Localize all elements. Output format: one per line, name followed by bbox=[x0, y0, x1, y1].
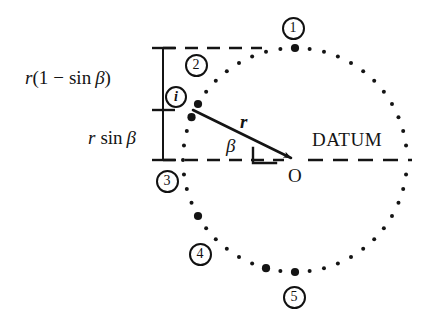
badge-4: 4 bbox=[189, 243, 212, 266]
circle-point bbox=[322, 266, 326, 270]
badge-i: i bbox=[165, 86, 187, 108]
badge-3-text: 3 bbox=[164, 173, 171, 189]
circle-point bbox=[396, 115, 400, 119]
highlighted-point bbox=[262, 264, 270, 272]
circle-point bbox=[225, 69, 229, 73]
badge-1: 1 bbox=[282, 17, 305, 40]
badge-4-text: 4 bbox=[197, 246, 204, 262]
circle-point bbox=[308, 269, 312, 273]
circle-point bbox=[250, 261, 254, 265]
circle-point bbox=[390, 214, 394, 218]
circle-point bbox=[278, 269, 282, 273]
upper-dim-angle: β bbox=[91, 67, 104, 88]
circle-point bbox=[185, 187, 189, 191]
circle-point bbox=[182, 173, 186, 177]
badge-2: 2 bbox=[185, 54, 208, 77]
circle-point bbox=[308, 47, 312, 51]
highlighted-point bbox=[194, 212, 202, 220]
lower-dim-fn: sin bbox=[95, 127, 122, 148]
circle-point bbox=[250, 55, 254, 59]
circle-point bbox=[336, 261, 340, 265]
circle-point bbox=[214, 79, 218, 83]
upper-dim-close-paren: ) bbox=[105, 67, 111, 88]
circle-point bbox=[349, 61, 353, 65]
circle-point bbox=[278, 47, 282, 51]
lower-dimension-label: rsinβ bbox=[88, 128, 136, 147]
upper-dim-one: 1 bbox=[39, 67, 49, 88]
circle-point bbox=[190, 201, 194, 205]
diagram-svg bbox=[0, 0, 442, 330]
circle-point bbox=[396, 201, 400, 205]
badge-5: 5 bbox=[283, 286, 306, 309]
circle-point bbox=[382, 226, 386, 230]
circle-point bbox=[390, 102, 394, 106]
upper-dim-fn: sin bbox=[69, 67, 91, 88]
circle-point bbox=[382, 90, 386, 94]
circle-point bbox=[361, 247, 365, 251]
highlighted-point bbox=[187, 113, 195, 121]
badge-2-text: 2 bbox=[193, 57, 200, 73]
circle-point bbox=[401, 187, 405, 191]
upper-dim-minus: − bbox=[48, 67, 69, 88]
datum-label: DATUM bbox=[312, 130, 382, 149]
circle-point bbox=[214, 237, 218, 241]
circle-point bbox=[185, 129, 189, 133]
highlighted-point bbox=[194, 100, 202, 108]
circle-point bbox=[404, 173, 408, 177]
figure-canvas: r(1−sinβ) rsinβ r β DATUM O 12i345 bbox=[0, 0, 442, 330]
circle-point bbox=[361, 69, 365, 73]
badge-3: 3 bbox=[156, 170, 179, 193]
circle-point bbox=[336, 55, 340, 59]
circle-point bbox=[322, 50, 326, 54]
circle-point bbox=[182, 143, 186, 147]
center-label-o: O bbox=[288, 166, 302, 185]
badge-5-text: 5 bbox=[291, 289, 298, 305]
badge-1-text: 1 bbox=[290, 20, 297, 36]
highlighted-point bbox=[291, 268, 299, 276]
beta-label: β bbox=[226, 136, 235, 155]
badge-i-text: i bbox=[174, 89, 178, 105]
circle-point bbox=[349, 255, 353, 259]
circle-point bbox=[372, 79, 376, 83]
circle-point bbox=[372, 237, 376, 241]
circle-point bbox=[264, 50, 268, 54]
radius-label: r bbox=[240, 112, 247, 131]
circle-point bbox=[204, 90, 208, 94]
upper-dimension-label: r(1−sinβ) bbox=[25, 68, 111, 87]
circle-point bbox=[204, 226, 208, 230]
circle-point bbox=[401, 129, 405, 133]
circle-point bbox=[237, 255, 241, 259]
circle-point bbox=[181, 158, 185, 162]
circle-point bbox=[404, 143, 408, 147]
circle-point bbox=[237, 61, 241, 65]
lower-dim-angle: β bbox=[123, 127, 136, 148]
highlighted-point bbox=[291, 44, 299, 52]
circle-point bbox=[225, 247, 229, 251]
